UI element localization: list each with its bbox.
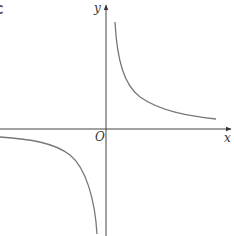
curve-branch-quadrant-1 (115, 22, 216, 119)
option-label: C (0, 3, 4, 16)
y-axis-label: y (94, 2, 101, 14)
function-graph (0, 0, 234, 236)
x-axis-label: x (224, 132, 231, 144)
origin-label: O (95, 131, 105, 143)
curve-branch-quadrant-3 (0, 137, 97, 234)
